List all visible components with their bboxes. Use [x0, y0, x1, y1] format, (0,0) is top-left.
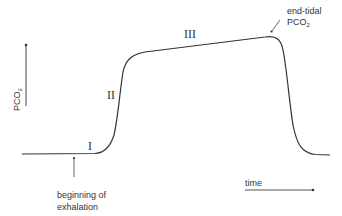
capnogram-curve [22, 37, 330, 155]
phase-2-label: II [107, 88, 115, 102]
end-tidal-label-line2: PCO2 [287, 17, 311, 28]
x-axis-label: time [245, 178, 262, 188]
end-tidal-label-line1: end-tidal [287, 6, 322, 16]
end-tidal-arrowhead [270, 30, 272, 32]
beginning-label-line2: exhalation [57, 202, 98, 212]
capnogram-diagram: PCO2 I II III end-tidal PCO2 beginning o… [0, 0, 342, 216]
y-axis-label: PCO2 [12, 87, 23, 111]
phase-1-label: I [88, 139, 92, 153]
phase-3-label: III [184, 27, 196, 41]
y-axis-arrowhead [25, 44, 28, 47]
beginning-arrowhead [73, 157, 75, 159]
x-axis-arrowhead [312, 189, 315, 192]
end-tidal-pointer [272, 20, 280, 31]
beginning-label-line1: beginning of [57, 190, 107, 200]
